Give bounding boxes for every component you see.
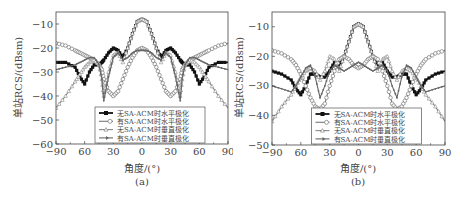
y-tick-label: −60 xyxy=(32,139,53,150)
y-tick-label: −30 xyxy=(32,67,53,78)
x-tick-label: 30 xyxy=(164,146,177,157)
series-2 xyxy=(54,17,228,109)
series-group xyxy=(270,22,445,123)
chart-panel-b: −9060300306090−10−20−30−40−50无SA-ACM时水平极… xyxy=(233,0,466,200)
y-tick-label: −20 xyxy=(248,51,269,62)
y-tick-label: −20 xyxy=(32,43,53,54)
x-tick-label: 30 xyxy=(381,147,394,158)
legend: 无SA-ACM时水平极化有SA-ACM时水平极化无SA-ACM时垂直极化有SA-… xyxy=(312,108,422,144)
y-axis-label-a: 单站RCS/(dBsm) xyxy=(10,23,25,133)
series-group xyxy=(54,17,228,109)
caption-a: (a) xyxy=(122,176,162,187)
y-tick-label: −40 xyxy=(248,110,269,121)
y-tick-label: −40 xyxy=(32,91,53,102)
legend-label: 有SA-ACM时垂直极化 xyxy=(117,134,189,143)
caption-b: (b) xyxy=(338,176,378,187)
x-tick-label: 0 xyxy=(355,147,361,158)
legend-label: 有SA-ACM时水平极化 xyxy=(117,117,189,126)
legend-label: 无SA-ACM时水平极化 xyxy=(117,109,189,118)
x-tick-label: 60 xyxy=(193,146,206,157)
x-tick-label: 60 xyxy=(410,147,423,158)
x-tick-label: 60 xyxy=(294,147,307,158)
y-tick-label: −10 xyxy=(248,21,269,32)
legend-label: 无SA-ACM时垂直极化 xyxy=(334,126,406,135)
legend-label: 无SA-ACM时垂直极化 xyxy=(117,125,189,134)
x-tick-label: 60 xyxy=(78,146,91,157)
legend-label: 无SA-ACM时水平极化 xyxy=(334,110,406,119)
x-tick-label: 30 xyxy=(107,146,120,157)
y-tick-label: −50 xyxy=(248,140,269,151)
y-tick-label: −10 xyxy=(32,19,53,30)
x-tick-label: 0 xyxy=(139,146,145,157)
x-tick-label: 30 xyxy=(323,147,336,158)
chart-panel-a: −9060300306090−10−20−30−40−50−60无SA-ACM时… xyxy=(0,0,233,200)
y-tick-label: −30 xyxy=(248,80,269,91)
x-tick-label: 90 xyxy=(222,146,233,157)
y-axis-label-b: 单站RCS/(dBsm) xyxy=(231,23,246,133)
x-axis-label-b: 角度/(°) xyxy=(318,160,398,175)
legend: 无SA-ACM时水平极化有SA-ACM时水平极化无SA-ACM时垂直极化有SA-… xyxy=(95,107,205,143)
x-axis-label-a: 角度/(°) xyxy=(102,160,182,175)
legend-label: 有SA-ACM时水平极化 xyxy=(334,118,406,127)
x-tick-label: 90 xyxy=(439,147,452,158)
y-tick-label: −50 xyxy=(32,115,53,126)
legend-label: 有SA-ACM时垂直极化 xyxy=(334,135,406,144)
